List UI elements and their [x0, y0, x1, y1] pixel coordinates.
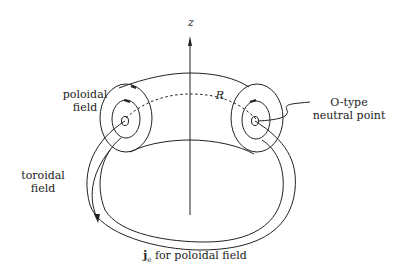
torus-top-edge: [119, 73, 249, 88]
current-text: for poloidal field: [151, 249, 246, 262]
neutral-point-leader-line: [258, 102, 310, 121]
neutral-point-label-line2: neutral point: [309, 109, 389, 122]
torus-field-diagram: z R poloidal field toroidal field O-type…: [0, 0, 393, 269]
current-label: je for poloidal field: [125, 249, 265, 267]
major-radius-label: R: [214, 89, 226, 102]
neutral-point-label-line1: O-type: [309, 96, 389, 109]
left-poloidal-inner-loop: [112, 100, 140, 138]
poloidal-field-label-line1: poloidal: [60, 88, 110, 101]
poloidal-field-label-line2: field: [60, 101, 110, 114]
torus-bottom-edge: [130, 140, 254, 154]
toroidal-field-label-line1: toroidal: [18, 169, 68, 182]
z-axis-arrowhead-icon: [188, 36, 192, 46]
toroidal-field-line: [92, 150, 110, 220]
z-axis-label: z: [185, 16, 197, 29]
right-inner-arrow-icon: [250, 100, 256, 102]
right-poloidal-outer-loop: [231, 84, 283, 152]
o-type-neutral-point-label: O-type neutral point: [309, 96, 389, 122]
toroidal-loop-inner: [100, 138, 283, 242]
poloidal-field-label: poloidal field: [60, 88, 110, 114]
major-radius-dashed-line: [126, 94, 257, 120]
diagram-canvas: [0, 0, 393, 269]
toroidal-field-label-line2: field: [18, 182, 68, 195]
toroidal-field-label: toroidal field: [18, 169, 68, 195]
